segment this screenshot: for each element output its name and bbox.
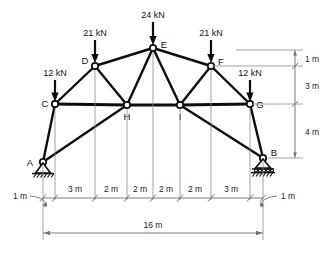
joint-label-B: B	[271, 147, 277, 158]
load-label-F: 21 kN	[199, 28, 223, 38]
bay-label-1: 3 m	[68, 184, 82, 194]
load-arrow-C	[51, 80, 58, 102]
vdim-label-top: 1 m	[305, 54, 319, 64]
load-label-E: 24 kN	[141, 10, 165, 20]
bay-label-3: 2 m	[133, 184, 147, 194]
member-I-G	[180, 104, 250, 105]
load-arrow-E	[149, 22, 156, 46]
truss-figure: A B C D E F G H I	[0, 0, 330, 257]
member-F-I	[180, 66, 211, 105]
joint-label-F: F	[218, 56, 224, 67]
left-offset-label: 1 m	[13, 191, 27, 201]
roller-wheels	[255, 169, 274, 172]
member-A-H	[43, 105, 127, 162]
load-label-D: 21 kN	[83, 28, 107, 38]
joint-label-D: D	[82, 55, 89, 66]
joint-label-A: A	[27, 157, 34, 168]
span-label: 16 m	[144, 220, 163, 230]
truss-diagram-canvas: A B C D E F G H I	[0, 0, 330, 257]
vdim-label-middle: 3 m	[305, 81, 319, 91]
joint-D	[92, 63, 98, 69]
member-E-H	[127, 48, 153, 105]
bay-label-6: 3 m	[224, 184, 238, 194]
roller-hatching	[253, 173, 273, 177]
bay-label-4: 2 m	[159, 184, 173, 194]
joint-label-G: G	[256, 99, 263, 110]
load-label-G: 12 kN	[238, 68, 262, 78]
member-D-H	[95, 66, 127, 105]
vdim-arrow-base	[293, 153, 297, 158]
load-label-C: 12 kN	[43, 68, 67, 78]
member-D-E	[95, 48, 153, 66]
member-A-C	[43, 104, 55, 162]
vdim-label-bottom: 4 m	[305, 127, 319, 137]
joint-label-E: E	[161, 39, 167, 50]
vdim-arrow-top	[293, 51, 297, 56]
span-arrow-right	[256, 231, 262, 235]
load-arrow-G	[246, 80, 253, 102]
joint-label-C: C	[42, 98, 49, 109]
bay-label-2: 2 m	[104, 184, 118, 194]
member-E-I	[153, 48, 180, 105]
member-C-H	[55, 104, 127, 105]
right-offset-arrow	[260, 202, 265, 207]
bay-label-5: 2 m	[188, 184, 202, 194]
load-arrow-D	[91, 40, 98, 64]
total-span-dimension: 16 m	[43, 220, 263, 235]
joint-I	[177, 102, 183, 108]
span-arrow-left	[44, 231, 50, 235]
pin-hatching	[34, 174, 54, 178]
member-E-F	[153, 48, 211, 66]
load-arrow-F	[207, 40, 214, 64]
member-I-B	[180, 105, 263, 158]
horizontal-dim-extension-lines	[43, 52, 263, 240]
right-offset-dimension: 1 m	[260, 191, 295, 207]
joint-E	[150, 45, 156, 51]
left-offset-dimension: 1 m	[13, 191, 47, 207]
joint-H	[124, 102, 130, 108]
right-offset-label: 1 m	[281, 191, 295, 201]
